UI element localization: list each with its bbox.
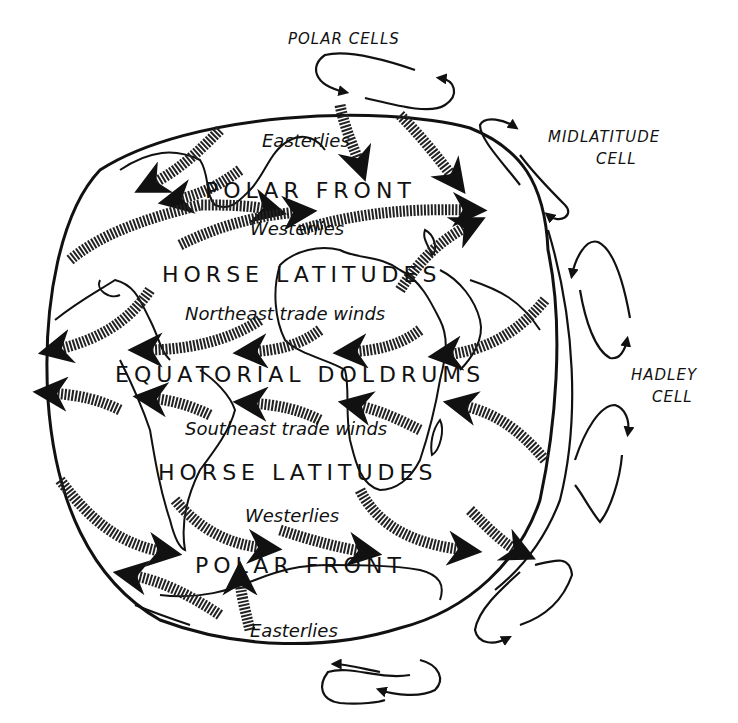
hadley-cell-label-line2: CELL	[652, 388, 693, 406]
hadley-cell-lower	[575, 405, 628, 460]
hadley-cell-upper	[572, 242, 630, 318]
hadley-cell-label-line1: HADLEY	[631, 366, 697, 384]
midlatitude-cell-label-line2: CELL	[596, 150, 637, 168]
westerlies-south-label: Westerlies	[245, 505, 339, 526]
polar-cell-top	[316, 53, 415, 92]
horse-latitudes-south-label: HORSE LATITUDES	[158, 460, 437, 485]
polar-front-north-label: POLAR FRONT	[205, 178, 416, 203]
midlatitude-cell-label-line1: MIDLATITUDE	[548, 128, 660, 146]
westerlies-north-label: Westerlies	[250, 218, 344, 239]
polar-front-south-label: POLAR FRONT	[195, 553, 406, 578]
easterlies-north-label: Easterlies	[262, 130, 350, 151]
equatorial-doldrums-label: EQUATORIAL DOLDRUMS	[115, 362, 485, 387]
horse-latitudes-north-label: HORSE LATITUDES	[162, 262, 441, 287]
southeast-trade-winds-label: Southeast trade winds	[185, 418, 387, 439]
northeast-trade-winds-label: Northeast trade winds	[185, 303, 385, 324]
easterlies-south-label: Easterlies	[250, 620, 338, 641]
polar-cells-label: POLAR CELLS	[288, 30, 400, 48]
